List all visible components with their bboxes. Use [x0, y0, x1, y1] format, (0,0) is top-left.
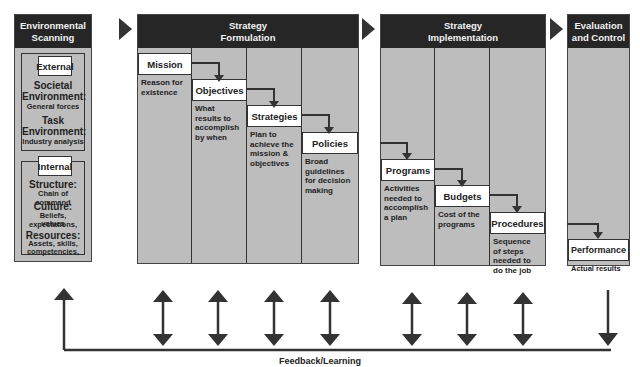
programs-to-budgets-arrow-icon: [434, 169, 462, 180]
double-arrows: [153, 290, 533, 346]
evaluation-down-arrow-icon: [598, 333, 618, 346]
double-arrow-procedures-icon: [513, 292, 533, 346]
double-arrow-policies-icon: [320, 290, 340, 346]
double-arrow-programs-icon: [402, 292, 422, 346]
mission-to-objectives-arrow-icon: [191, 63, 219, 75]
feedback-up-arrow-icon: [54, 288, 74, 300]
strategies-to-policies-arrow-icon: [301, 115, 329, 127]
into-programs-arrow-icon: [380, 143, 407, 153]
budgets-to-procedures-arrow-icon: [489, 195, 517, 206]
double-arrow-strategies-icon: [264, 290, 284, 346]
into-performance-arrow-icon: [567, 224, 598, 232]
connectors-layer: [0, 0, 640, 367]
objectives-to-strategies-arrow-icon: [246, 89, 274, 101]
feedback-learning-label: Feedback/Learning: [0, 356, 640, 366]
double-arrow-objectives-icon: [208, 290, 228, 346]
double-arrow-mission-icon: [153, 290, 173, 346]
double-arrow-budgets-icon: [457, 292, 477, 346]
feedback-loop-line: [64, 297, 611, 350]
